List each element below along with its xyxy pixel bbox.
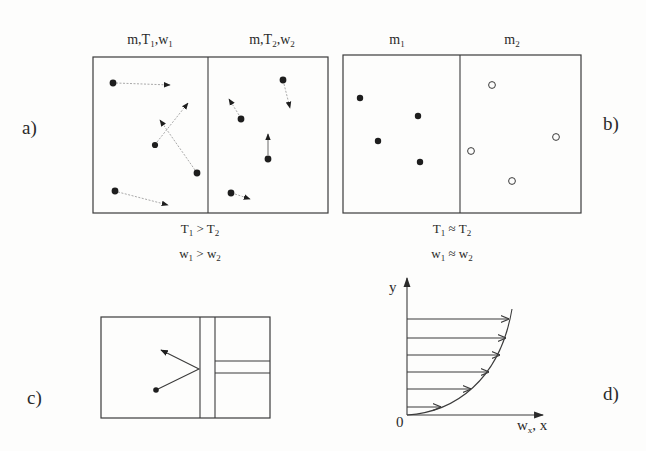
velocity-arrow-icon xyxy=(235,194,250,199)
reflection-arrow-icon xyxy=(156,350,199,390)
particle xyxy=(228,190,235,197)
panel-a-velocity-condition: w1 > w2 xyxy=(179,246,221,263)
condition-text: ≈ T xyxy=(445,221,466,236)
panel-b-left-particles xyxy=(357,95,423,165)
panel-a-container xyxy=(93,57,328,213)
condition-text: > w xyxy=(193,246,217,261)
x-axis-label: wx, x xyxy=(517,417,548,435)
open-particle xyxy=(509,178,516,185)
y-axis-label: y xyxy=(389,279,397,295)
panel-a: a) m,T1,w1 m,T2,w2 T1 > T2 xyxy=(22,32,328,263)
panel-b-right-particles xyxy=(468,82,560,185)
open-particle xyxy=(489,82,496,89)
header-text: m xyxy=(389,32,400,47)
header-text: m xyxy=(504,32,515,47)
particle xyxy=(194,170,201,177)
axis-text: , x xyxy=(532,417,548,433)
particle xyxy=(280,77,287,84)
subscript: 2 xyxy=(215,228,220,238)
condition-text: > T xyxy=(193,221,215,236)
subscript: 2 xyxy=(515,39,520,49)
velocity-arrow-icon xyxy=(157,103,188,142)
panel-c: c) xyxy=(27,317,270,418)
panel-b-container xyxy=(343,55,581,213)
panel-b-velocity-condition: w1 ≈ w2 xyxy=(431,246,472,263)
subscript: 1 xyxy=(400,39,405,49)
panel-b-label: b) xyxy=(603,113,619,135)
open-particle xyxy=(468,148,475,155)
particle xyxy=(152,142,158,148)
condition-text: T xyxy=(433,221,441,236)
velocity-arrow-icon xyxy=(160,120,195,170)
panel-b-header-right: m2 xyxy=(504,32,519,49)
panel-b-temperature-condition: T1 ≈ T2 xyxy=(433,221,471,238)
velocity-arrow-icon xyxy=(116,83,170,85)
open-particle xyxy=(553,134,560,141)
header-text: m,T xyxy=(249,32,272,47)
subscript: 2 xyxy=(467,228,472,238)
condition-text: T xyxy=(181,221,189,236)
panel-a-temperature-condition: T1 > T2 xyxy=(181,221,220,238)
panel-d-label: d) xyxy=(603,383,619,405)
origin-label: 0 xyxy=(396,414,404,430)
particle xyxy=(238,116,245,123)
subscript: 2 xyxy=(290,39,295,49)
panel-a-right-particles xyxy=(228,77,290,199)
panel-c-label: c) xyxy=(27,387,42,409)
particle xyxy=(417,159,423,165)
subscript: 2 xyxy=(216,253,221,263)
velocity-profile-curve xyxy=(407,309,512,415)
panel-b: b) m1 m2 T1 ≈ T2 w1 ≈ w2 xyxy=(343,32,619,263)
header-text: ,w xyxy=(277,32,292,47)
particle xyxy=(112,188,119,195)
axis-text: w xyxy=(517,417,528,433)
velocity-vectors xyxy=(407,319,509,407)
subscript: 2 xyxy=(468,253,473,263)
panel-c-container xyxy=(101,317,270,418)
panel-a-left-particles xyxy=(110,80,201,205)
velocity-arrow-icon xyxy=(118,192,168,205)
particle xyxy=(153,387,159,393)
condition-text: ≈ w xyxy=(445,246,469,261)
figure-canvas: a) m,T1,w1 m,T2,w2 T1 > T2 xyxy=(0,0,646,451)
header-text: m,T xyxy=(127,32,150,47)
particle xyxy=(375,138,381,144)
velocity-arrow-icon xyxy=(284,84,290,108)
subscript: 1 xyxy=(168,39,173,49)
velocity-arrow-icon xyxy=(229,99,239,115)
particle xyxy=(265,156,272,163)
particle xyxy=(415,113,421,119)
particle xyxy=(110,80,117,87)
panel-b-header-left: m1 xyxy=(389,32,404,49)
panel-d: d) y 0 wx, x xyxy=(389,278,619,435)
panel-a-header-left: m,T1,w1 xyxy=(127,32,173,49)
header-text: ,w xyxy=(155,32,170,47)
panel-a-label: a) xyxy=(22,117,37,139)
panel-a-header-right: m,T2,w2 xyxy=(249,32,295,49)
particle xyxy=(357,95,363,101)
